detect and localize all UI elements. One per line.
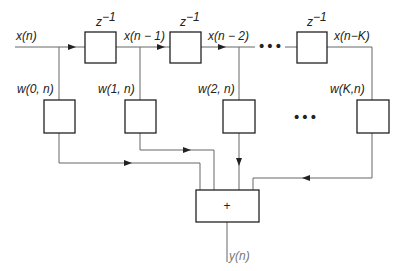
weight-label-1: w(1, n): [98, 82, 135, 96]
tap-label-1: x(n − 1): [123, 29, 165, 43]
weight-box-0: [44, 100, 75, 133]
weight-box-2: [223, 100, 255, 133]
delay-box-k: [297, 32, 327, 63]
weight-label-0: w(0, n): [17, 82, 54, 96]
ellipsis-weights: •••: [293, 109, 318, 125]
svg-text:z−1: z−1: [306, 10, 327, 29]
svg-text:z−1: z−1: [179, 10, 200, 29]
delay-box-2: [170, 32, 201, 63]
tap-label-k: x(n−K): [333, 29, 370, 43]
ellipsis-delay: •••: [258, 38, 283, 54]
arrowheads: [68, 44, 310, 181]
weight-boxes: [44, 100, 389, 133]
adder-symbol: +: [223, 199, 230, 213]
tap-label-2: x(n − 2): [207, 29, 249, 43]
weight-box-1: [125, 100, 156, 133]
delay-box-1: [85, 32, 116, 63]
fir-filter-diagram: + ••• ••• z−1 z−1 z−1 x(n) x(n − 1) x(n …: [0, 0, 405, 271]
weight-label-k: w(K,n): [330, 82, 365, 96]
weight-box-k: [357, 100, 389, 133]
output-label: y(n): [228, 249, 250, 263]
input-label: x(n): [15, 29, 37, 43]
svg-text:z−1: z−1: [95, 10, 116, 29]
signal-lines: [15, 47, 372, 262]
delay-labels: z−1 z−1 z−1: [95, 10, 327, 29]
weight-label-2: w(2, n): [198, 82, 235, 96]
